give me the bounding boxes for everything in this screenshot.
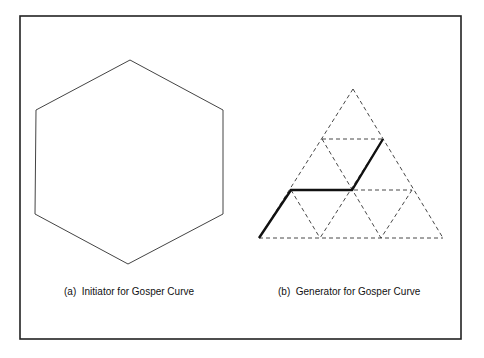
caption-a: (a) Initiator for Gosper Curve	[64, 286, 194, 297]
figure-canvas	[0, 0, 484, 358]
initiator-hexagon	[35, 60, 223, 264]
generator-path	[259, 139, 383, 238]
caption-b: (b) Generator for Gosper Curve	[278, 286, 420, 297]
generator-grid	[259, 89, 443, 238]
